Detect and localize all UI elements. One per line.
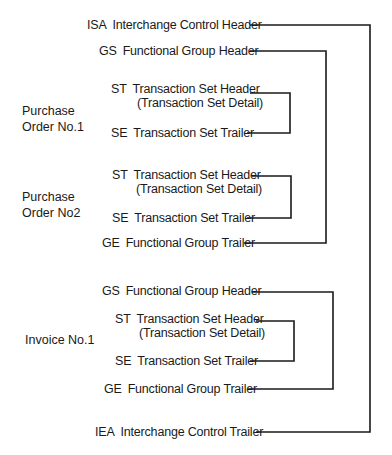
- segment-code: GE: [102, 236, 120, 250]
- group-label-line: Order No.1: [22, 119, 84, 135]
- detail-label: (Transaction Set Detail): [139, 326, 265, 340]
- st-segment-1: STTransaction Set Header: [111, 82, 260, 96]
- segment-code: ST: [115, 312, 131, 326]
- isa-iea-bracket: [250, 25, 370, 432]
- segment-code: ISA: [87, 18, 107, 32]
- segment-code: SE: [111, 126, 127, 140]
- ge-segment-2: GEFunctional Group Trailer: [104, 382, 257, 396]
- iea-segment: IEAInterchange Control Trailer: [95, 425, 263, 439]
- gs-segment-2: GSFunctional Group Header: [102, 284, 261, 298]
- segment-code: GS: [102, 284, 120, 298]
- segment-label: Functional Group Trailer: [126, 236, 255, 250]
- isa-segment: ISAInterchange Control Header: [87, 18, 262, 32]
- segment-label: Functional Group Header: [126, 284, 262, 298]
- se-segment-2: SETransaction Set Trailer: [112, 211, 255, 225]
- gs2-ge2-bracket: [248, 292, 333, 389]
- group-label-purchase-order-1: Purchase Order No.1: [22, 103, 84, 135]
- group-label-line: Purchase: [22, 103, 84, 119]
- segment-code: ST: [112, 168, 128, 182]
- segment-label: Transaction Set Trailer: [134, 211, 255, 225]
- segment-label: Functional Group Header: [123, 44, 259, 58]
- segment-label: Transaction Set Header: [134, 168, 261, 182]
- detail-label: (Transaction Set Detail): [137, 96, 263, 110]
- st-segment-3: STTransaction Set Header: [115, 312, 264, 326]
- st-segment-2: STTransaction Set Header: [112, 168, 261, 182]
- segment-label: Transaction Set Trailer: [133, 126, 254, 140]
- segment-label: Transaction Set Header: [137, 312, 264, 326]
- segment-label: Transaction Set Header: [133, 82, 260, 96]
- segment-code: GS: [99, 44, 117, 58]
- segment-code: SE: [112, 211, 128, 225]
- se-segment-1: SETransaction Set Trailer: [111, 126, 254, 140]
- segment-code: ST: [111, 82, 127, 96]
- group-label-line: Purchase: [22, 189, 80, 205]
- gs-segment-1: GSFunctional Group Header: [99, 44, 258, 58]
- segment-label: Transaction Set Trailer: [137, 354, 258, 368]
- group-label-line: Order No2: [22, 205, 80, 221]
- ge-segment-1: GEFunctional Group Trailer: [102, 236, 255, 250]
- group-label-invoice-1: Invoice No.1: [25, 332, 94, 348]
- group-label-purchase-order-2: Purchase Order No2: [22, 189, 80, 221]
- segment-label: Interchange Control Header: [113, 18, 262, 32]
- detail-label: (Transaction Set Detail): [136, 182, 262, 196]
- segment-code: SE: [115, 354, 131, 368]
- se-segment-3: SETransaction Set Trailer: [115, 354, 258, 368]
- segment-code: IEA: [95, 425, 115, 439]
- segment-code: GE: [104, 382, 122, 396]
- gs1-ge1-bracket: [244, 51, 326, 243]
- segment-label: Functional Group Trailer: [128, 382, 257, 396]
- segment-label: Interchange Control Trailer: [121, 425, 264, 439]
- group-label-line: Invoice No.1: [25, 332, 94, 348]
